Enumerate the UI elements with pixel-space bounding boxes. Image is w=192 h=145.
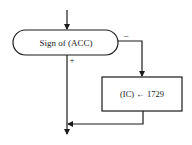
positive-branch-label: + [69,55,74,65]
process-node: (IC) ← 1729 [102,77,182,111]
negative-branch-line [118,41,142,76]
decision-node: Sign of (ACC) [13,30,118,55]
merge-line [68,111,143,124]
decision-label: Sign of (ACC) [39,38,92,48]
negative-branch-label: − [123,31,128,41]
process-label: (IC) ← 1729 [120,89,164,99]
flowchart: Sign of (ACC) − (IC) ← 1729 + [0,0,192,145]
